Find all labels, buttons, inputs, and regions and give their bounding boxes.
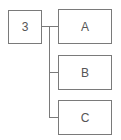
child-node-c: C xyxy=(58,100,112,135)
root-node-label: 3 xyxy=(22,20,29,34)
child-node-c-label: C xyxy=(81,111,90,125)
child-node-a: A xyxy=(58,9,112,44)
root-node: 3 xyxy=(8,10,42,44)
child-node-a-label: A xyxy=(81,20,89,34)
connector-root-horizontal xyxy=(41,26,59,27)
child-node-b-label: B xyxy=(81,66,89,80)
child-node-b: B xyxy=(58,55,112,90)
